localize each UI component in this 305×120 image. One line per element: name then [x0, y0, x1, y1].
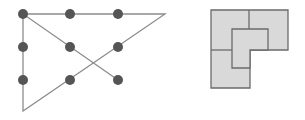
dot: [18, 9, 28, 19]
dot: [113, 42, 123, 52]
dot: [113, 9, 123, 19]
inner-l-piece: [232, 29, 268, 68]
dot: [65, 75, 75, 85]
dot: [65, 42, 75, 52]
connecting-lines: [23, 14, 165, 111]
figure-canvas: [0, 0, 305, 120]
dot: [18, 75, 28, 85]
dot: [18, 42, 28, 52]
nine-dot-puzzle: [18, 9, 165, 111]
dot: [113, 75, 123, 85]
dot: [65, 9, 75, 19]
l-shape-dissection: [211, 10, 288, 88]
